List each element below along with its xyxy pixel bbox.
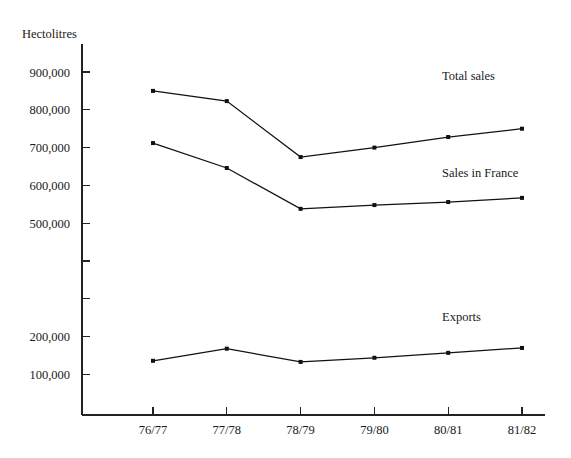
y-axis xyxy=(82,44,90,415)
series-label-total-sales: Total sales xyxy=(442,69,495,83)
series-label-exports: Exports xyxy=(442,310,481,324)
data-point-marker xyxy=(299,207,303,211)
data-point-marker xyxy=(520,196,524,200)
data-point-marker xyxy=(520,127,524,131)
y-tick-label: 100,000 xyxy=(29,368,70,382)
data-point-marker xyxy=(151,359,155,363)
data-point-marker xyxy=(372,146,376,150)
x-tick-label: 77/78 xyxy=(213,423,241,437)
x-tick-label: 78/79 xyxy=(286,423,314,437)
data-point-marker xyxy=(446,351,450,355)
data-point-marker xyxy=(520,346,524,350)
data-point-marker xyxy=(299,360,303,364)
data-point-marker xyxy=(446,200,450,204)
y-tick-label: 900,000 xyxy=(29,66,70,80)
data-point-marker xyxy=(225,99,229,103)
data-point-marker xyxy=(225,347,229,351)
data-point-marker xyxy=(299,155,303,159)
x-tick-label: 81/82 xyxy=(508,423,536,437)
series-line-total-sales xyxy=(153,91,522,157)
chart-container: 100,000200,000500,000600,000700,000800,0… xyxy=(0,0,571,458)
x-tick-label: 80/81 xyxy=(434,423,462,437)
y-tick-label: 700,000 xyxy=(29,141,70,155)
series-line-exports xyxy=(153,348,522,362)
y-tick-label: 500,000 xyxy=(29,217,70,231)
data-point-marker xyxy=(372,203,376,207)
series-labels: Total salesSales in FranceExports xyxy=(442,69,519,325)
data-point-marker xyxy=(151,89,155,93)
data-point-marker xyxy=(151,141,155,145)
y-tick-labels: 100,000200,000500,000600,000700,000800,0… xyxy=(29,66,70,382)
data-point-marker xyxy=(372,356,376,360)
x-tick-label: 76/77 xyxy=(139,423,167,437)
y-tick-label: 200,000 xyxy=(29,330,70,344)
data-point-marker xyxy=(225,166,229,170)
line-chart-canvas: 100,000200,000500,000600,000700,000800,0… xyxy=(0,0,571,458)
x-tick-labels: 76/7777/7878/7979/8080/8181/82 xyxy=(139,423,536,437)
y-tick-label: 600,000 xyxy=(29,179,70,193)
x-axis xyxy=(82,407,545,415)
y-tick-label: 800,000 xyxy=(29,103,70,117)
y-axis-title: Hectolitres xyxy=(22,27,77,41)
data-point-marker xyxy=(446,135,450,139)
series-label-sales-in-france: Sales in France xyxy=(442,166,519,180)
x-tick-label: 79/80 xyxy=(360,423,388,437)
